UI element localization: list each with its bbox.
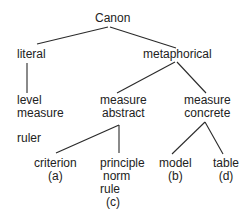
node-canon: Canon	[95, 12, 130, 25]
node-tag: (d)	[213, 170, 239, 183]
edge-metaphorical-abstract	[117, 62, 175, 93]
node-measure-abstract: measure abstract	[100, 94, 147, 120]
node-level-measure: level measure	[17, 94, 64, 120]
node-label: literal	[17, 48, 46, 61]
edge-concrete-table	[205, 122, 223, 154]
edge-abstract-criterion	[56, 125, 119, 153]
node-tag: (c)	[100, 196, 145, 209]
node-literal: literal	[17, 48, 46, 61]
node-model: model (b)	[159, 157, 192, 183]
node-metaphorical: metaphorical	[143, 48, 212, 61]
node-criterion: criterion (a)	[34, 157, 77, 183]
node-label: abstract	[100, 107, 147, 120]
node-tag: (b)	[159, 170, 192, 183]
node-tag: (a)	[34, 170, 77, 183]
node-label: concrete	[184, 107, 231, 120]
edge-canon-metaphorical	[110, 27, 176, 48]
node-measure-concrete: measure concrete	[184, 94, 231, 120]
edge-canon-literal	[37, 27, 108, 44]
node-ruler: ruler	[17, 132, 41, 145]
node-label: measure	[17, 107, 64, 120]
node-label: Canon	[95, 12, 130, 25]
edge-metaphorical-concrete	[177, 62, 206, 93]
node-table: table (d)	[213, 157, 239, 183]
node-principle: principle norm rule (c)	[100, 157, 145, 209]
node-label: metaphorical	[143, 48, 212, 61]
edge-concrete-model	[172, 122, 205, 154]
node-label: ruler	[17, 132, 41, 145]
